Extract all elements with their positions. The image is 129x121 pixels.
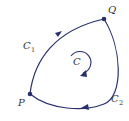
label-c1-subscript: 1	[31, 46, 35, 54]
point-q	[102, 17, 107, 22]
label-c2: C	[111, 93, 119, 104]
point-p	[28, 92, 33, 97]
curve-c1	[30, 19, 104, 94]
label-c1: C	[23, 40, 31, 51]
label-c-center: C	[73, 56, 81, 67]
label-c2-subscript: 2	[119, 99, 123, 107]
label-p: P	[17, 97, 25, 108]
circular-arrowhead-icon	[80, 70, 87, 77]
arrow-c1-icon	[55, 31, 62, 37]
contour-diagram: P Q C 1 C 2 C	[0, 0, 129, 121]
label-q: Q	[108, 4, 116, 15]
